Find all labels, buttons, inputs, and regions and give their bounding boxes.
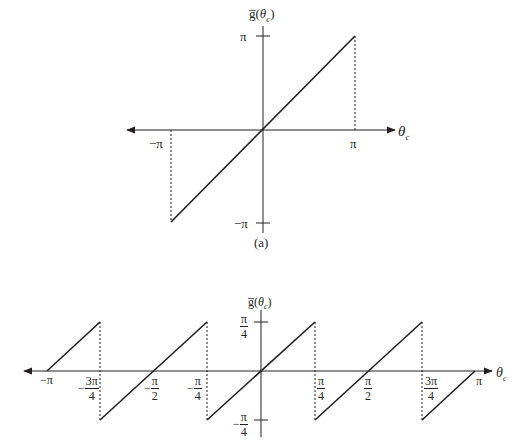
x-tick-pi-2: π 2 — [364, 375, 372, 402]
minus-sign: − — [78, 381, 85, 396]
x-tick-neg-pi-2: − π 2 — [144, 375, 159, 402]
label-sub: c — [503, 374, 507, 383]
label-close: ) — [267, 295, 271, 309]
x-tick-neg-pi-4: − π 4 — [187, 375, 202, 402]
panel-a-y-axis-label: g̅(θc) — [249, 7, 275, 24]
panel-a-plot — [127, 26, 395, 233]
frac-num: π — [317, 375, 325, 389]
frac-den: 4 — [241, 425, 247, 438]
x-tick-neg-3pi-4: − 3π 4 — [78, 375, 99, 402]
minus-sign: − — [144, 381, 151, 396]
frac-num: π — [240, 411, 248, 425]
panel-a-y-tick-top-label: π — [240, 30, 247, 43]
minus-sign: − — [233, 417, 240, 432]
panel-a-caption: (a) — [254, 236, 268, 249]
frac-den: 4 — [318, 389, 324, 402]
frac-den: 4 — [241, 327, 247, 340]
minus-sign: − — [187, 381, 194, 396]
frac-num: π — [151, 375, 159, 389]
frac-den: 4 — [89, 389, 95, 402]
frac-num: 3π — [424, 375, 438, 389]
x-tick-pi-4: π 4 — [317, 375, 325, 402]
frac-den: 2 — [152, 389, 158, 402]
x-tick-neg-pi: −π — [40, 374, 53, 386]
panel-a-x-tick-right-label: π — [350, 137, 357, 150]
panel-a-y-tick-bottom-label: −π — [234, 217, 248, 230]
frac-num: π — [240, 313, 248, 327]
label-func: g̅( — [249, 6, 260, 21]
frac-den: 2 — [365, 389, 371, 402]
label-var: θ — [496, 365, 503, 380]
panel-a-x-tick-left-label: −π — [149, 137, 163, 150]
panel-a-x-axis-label: θc — [398, 124, 409, 142]
label-func: g̅( — [248, 295, 258, 309]
panel-b-y-tick-top-label: π 4 — [240, 313, 248, 340]
frac-num: π — [364, 375, 372, 389]
frac-den: 4 — [428, 389, 434, 402]
panel-b-x-axis-label: θc — [496, 366, 506, 383]
x-tick-3pi-4: 3π 4 — [424, 375, 438, 402]
label-close: ) — [270, 6, 274, 21]
frac-den: 4 — [195, 389, 201, 402]
x-tick-pi: π — [476, 375, 482, 387]
label-sub: c — [405, 132, 409, 142]
panel-b-y-axis-label: g̅(θc) — [248, 296, 271, 311]
frac-num: 3π — [85, 375, 99, 389]
frac-num: π — [194, 375, 202, 389]
panel-b-y-tick-bottom-label: − π 4 — [233, 411, 248, 438]
